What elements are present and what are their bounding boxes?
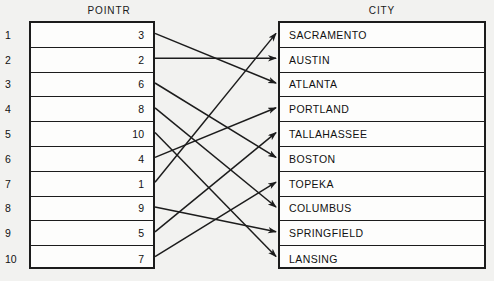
pointer-arrow [155, 108, 276, 207]
pointer-array-diagram: POINTR CITY 1322364851064718995107 SACRA… [0, 0, 494, 281]
pointr-row-index: 2 [5, 54, 26, 66]
city-name: ATLANTA [289, 78, 338, 90]
city-row: COLUMBUS [280, 197, 484, 222]
pointr-value: 7 [138, 253, 144, 265]
pointr-value: 2 [138, 54, 144, 66]
city-column-title: CITY [278, 5, 486, 16]
pointer-arrow [155, 133, 276, 257]
pointr-row: 36 [31, 73, 153, 98]
pointr-value: 10 [132, 128, 144, 140]
pointer-arrow [155, 133, 276, 232]
pointr-row-index: 4 [5, 103, 26, 115]
city-name: AUSTIN [289, 54, 330, 66]
pointr-row: 89 [31, 197, 153, 222]
city-row: PORTLAND [280, 97, 484, 122]
city-name: SPRINGFIELD [289, 227, 363, 239]
city-row: ATLANTA [280, 73, 484, 98]
pointer-arrow [155, 207, 276, 232]
city-name: COLUMBUS [289, 202, 352, 214]
city-row: AUSTIN [280, 48, 484, 73]
city-name: LANSING [289, 253, 338, 265]
city-row: SPRINGFIELD [280, 221, 484, 246]
pointr-row: 13 [31, 23, 153, 48]
pointer-arrow [155, 108, 276, 158]
city-array: SACRAMENTOAUSTINATLANTAPORTLANDTALLAHASS… [278, 21, 486, 269]
city-row: BOSTON [280, 147, 484, 172]
city-name: TALLAHASSEE [289, 128, 367, 140]
pointr-value: 8 [138, 103, 144, 115]
pointr-row-index: 7 [5, 178, 26, 190]
pointer-arrow [155, 182, 276, 256]
pointr-array: 1322364851064718995107 [29, 21, 155, 269]
pointr-value: 1 [138, 178, 144, 190]
pointr-row-index: 8 [5, 202, 26, 214]
pointr-row-index: 6 [5, 153, 26, 165]
city-row: TOPEKA [280, 172, 484, 197]
pointer-arrow [155, 33, 276, 83]
city-name: TOPEKA [289, 178, 334, 190]
pointr-row: 107 [31, 246, 153, 271]
pointr-value: 3 [138, 29, 144, 41]
pointr-value: 5 [138, 227, 144, 239]
pointr-row-index: 1 [5, 29, 26, 41]
pointr-value: 4 [138, 153, 144, 165]
city-name: SACRAMENTO [289, 29, 367, 41]
pointr-row-index: 10 [5, 253, 26, 265]
city-row: TALLAHASSEE [280, 122, 484, 147]
pointr-row: 22 [31, 48, 153, 73]
pointr-row: 510 [31, 122, 153, 147]
pointer-arrow [155, 83, 276, 157]
pointr-value: 6 [138, 78, 144, 90]
pointr-row: 48 [31, 97, 153, 122]
pointr-row-index: 3 [5, 78, 26, 90]
city-name: BOSTON [289, 153, 336, 165]
city-row: SACRAMENTO [280, 23, 484, 48]
pointr-row-index: 5 [5, 128, 26, 140]
pointr-row: 71 [31, 172, 153, 197]
pointer-arrow [155, 33, 276, 182]
pointr-column-title: POINTR [63, 5, 155, 16]
city-name: PORTLAND [289, 103, 349, 115]
pointr-row-index: 9 [5, 227, 26, 239]
pointr-value: 9 [138, 202, 144, 214]
pointr-row: 64 [31, 147, 153, 172]
city-row: LANSING [280, 246, 484, 271]
pointr-row: 95 [31, 221, 153, 246]
